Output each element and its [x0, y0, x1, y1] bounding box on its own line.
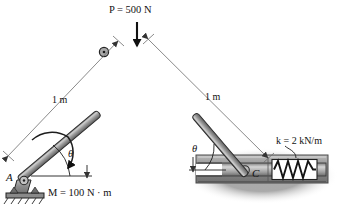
- moment-label: M = 100 N · m: [48, 187, 111, 198]
- dimension-left-label: 1 m: [52, 94, 68, 105]
- angle-right-label: θ: [192, 143, 197, 154]
- dimension-right-label: 1 m: [205, 91, 221, 102]
- spring-housing: [272, 160, 317, 180]
- member-ab: [17, 110, 101, 183]
- point-a-label: A: [5, 171, 13, 183]
- diagram-canvas: P = 500 N 1 m 1 m θ M = 100 N · m: [0, 0, 341, 212]
- spring-label: k = 2 kN/m: [276, 135, 322, 146]
- load-label: P = 500 N: [109, 4, 152, 15]
- ground-hatch: [4, 198, 43, 204]
- statics-diagram-figure: P = 500 N 1 m 1 m θ M = 100 N · m: [0, 0, 341, 212]
- point-c-label: C: [252, 167, 260, 179]
